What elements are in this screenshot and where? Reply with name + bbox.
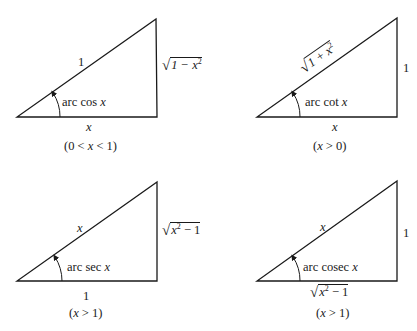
opposite-label: 1	[403, 62, 409, 75]
opposite-label: √1 − x2	[162, 57, 202, 73]
angle-arc-arrow-icon	[293, 257, 300, 281]
angle-arc-arrow-icon	[55, 257, 62, 281]
angle-label: arc sec x	[67, 261, 110, 274]
angle-label: arc cosec x	[303, 261, 358, 274]
diagram-canvas	[0, 0, 417, 331]
hypotenuse-label: x	[77, 222, 83, 235]
hypotenuse-label: 1	[78, 56, 84, 69]
adjacent-label: x	[332, 121, 338, 134]
angle-arc-arrow-icon	[53, 93, 60, 117]
angle-label: arc cot x	[305, 96, 347, 109]
condition-label: (x > 0)	[313, 140, 346, 153]
adjacent-label: √x2 − 1	[310, 284, 348, 300]
opposite-label: 1	[403, 227, 409, 240]
condition-label: (x > 1)	[69, 307, 102, 320]
angle-label: arc cos x	[62, 96, 106, 109]
adjacent-label: x	[86, 121, 92, 134]
adjacent-label: 1	[83, 290, 89, 303]
condition-label: (x > 1)	[316, 307, 349, 320]
condition-label: (0 < x < 1)	[64, 140, 117, 153]
angle-arc-arrow-icon	[293, 93, 300, 117]
opposite-label: √x2 − 1	[162, 222, 200, 238]
hypotenuse-label: x	[320, 221, 326, 234]
